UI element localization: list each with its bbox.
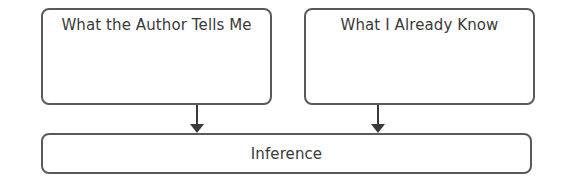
arrow-head	[371, 124, 385, 133]
arrow-shaft	[377, 105, 379, 125]
author-tells-me-box: What the Author Tells Me	[41, 8, 272, 105]
inference-label: Inference	[43, 145, 530, 163]
arrow-shaft	[196, 105, 198, 125]
inference-box: Inference	[41, 133, 532, 174]
arrow-down-icon	[371, 105, 385, 133]
author-tells-me-label: What the Author Tells Me	[43, 16, 270, 34]
already-know-box: What I Already Know	[304, 8, 535, 105]
already-know-label: What I Already Know	[306, 16, 533, 34]
arrow-down-icon	[190, 105, 204, 133]
arrow-head	[190, 124, 204, 133]
